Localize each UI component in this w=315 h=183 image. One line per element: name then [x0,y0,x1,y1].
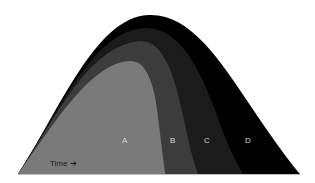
label-b: B [170,137,175,145]
label-c: C [204,137,210,145]
time-axis-label: Time ➔ [50,160,77,168]
label-d: D [245,137,251,145]
stacked-area-chart [0,0,315,183]
label-a: A [122,137,127,145]
